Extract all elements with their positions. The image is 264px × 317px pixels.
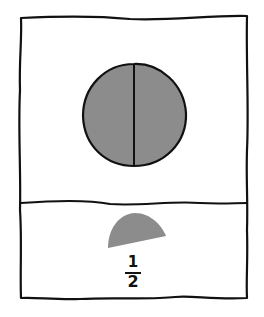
half-circle-piece xyxy=(108,213,166,248)
fraction-denominator: 2 xyxy=(118,273,148,291)
panel-divider xyxy=(21,201,247,205)
fraction-numerator: 1 xyxy=(118,254,148,270)
whole-circle xyxy=(83,64,186,166)
